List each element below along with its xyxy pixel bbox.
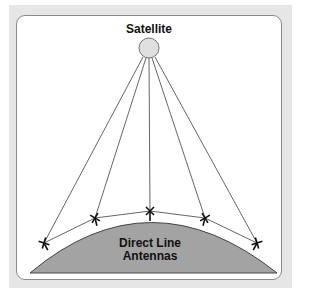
ground-label: Direct Line Antennas: [100, 237, 200, 263]
satellite-icon: [139, 38, 159, 58]
antenna-icon: [39, 238, 52, 252]
ground-label-line2: Antennas: [100, 250, 200, 263]
antenna-icon: [250, 238, 263, 252]
satellite-label: Satellite: [99, 22, 199, 36]
